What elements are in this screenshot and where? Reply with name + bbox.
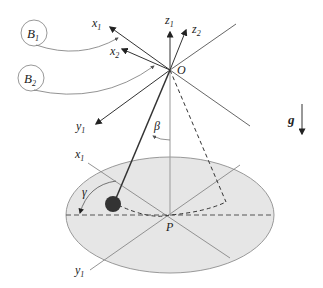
z1-label: z1: [164, 13, 174, 29]
origin-O-label: O: [177, 63, 186, 77]
x2-top-label: x2: [109, 44, 119, 60]
x1-bottom-label: x1: [74, 147, 84, 163]
beta-label: β: [153, 119, 160, 133]
frame-line-x2: [122, 49, 170, 70]
z2-label: z2: [191, 22, 201, 38]
B2-connector: [34, 66, 154, 94]
y1-top-label: y1: [75, 119, 85, 135]
pendulum-bob: [105, 196, 121, 212]
pendulum-diagram: B1 B2 x1 x2 y1 z1 z2 O β γ g x1 y1 P: [0, 0, 323, 288]
frame-line-x1: [110, 27, 170, 70]
B1-connector: [36, 38, 118, 51]
beta-angle-arc: [153, 136, 170, 140]
point-P-label: P: [165, 220, 174, 234]
gravity-label: g: [287, 112, 295, 127]
y1-bottom-label: y1: [74, 263, 84, 279]
gamma-label: γ: [82, 185, 87, 199]
x1-top-label: x1: [91, 16, 101, 32]
